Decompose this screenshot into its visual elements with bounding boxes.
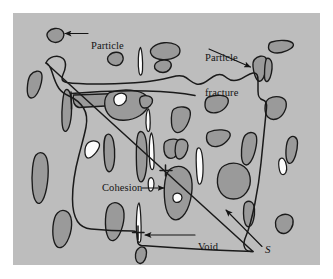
void — [148, 178, 154, 191]
particle — [265, 97, 286, 120]
microstructure-drawing — [13, 13, 320, 265]
particle — [105, 203, 124, 241]
void — [138, 48, 142, 76]
particle — [47, 28, 64, 42]
void — [196, 148, 203, 184]
particle — [27, 71, 42, 98]
void — [173, 193, 182, 202]
void — [85, 141, 100, 158]
void — [146, 109, 150, 132]
label-particle-fracture: Particle fracture — [205, 29, 238, 121]
particle — [241, 133, 256, 165]
particle — [150, 43, 180, 60]
particle — [275, 214, 293, 233]
particle — [135, 247, 146, 264]
particle — [286, 136, 298, 163]
void — [149, 133, 154, 170]
micrograph-panel: Particle Particle fracture Cohesion Void… — [13, 13, 320, 265]
void — [279, 158, 287, 174]
label-particle-fracture-line1: Particle — [205, 52, 238, 64]
boundary-tick-left — [71, 92, 72, 109]
particle-group — [27, 28, 297, 263]
label-void: Void — [198, 241, 218, 253]
particle — [171, 107, 190, 133]
particle — [136, 132, 147, 182]
particle — [217, 163, 250, 199]
particle — [53, 211, 72, 248]
figure-root: Particle Particle fracture Cohesion Void… — [0, 0, 333, 279]
label-particle-fracture-line2: fracture — [205, 87, 238, 99]
label-particle: Particle — [91, 40, 124, 52]
particle — [108, 52, 124, 65]
particle-fracture-right-half — [175, 139, 188, 159]
label-surface-s: S — [265, 244, 271, 256]
particle-cluster — [140, 96, 153, 108]
particle — [269, 40, 294, 53]
particle — [32, 153, 48, 204]
particle — [104, 134, 115, 172]
particle — [154, 60, 171, 72]
particle-fracture-right-half — [265, 58, 273, 81]
label-cohesion: Cohesion — [102, 182, 142, 194]
particle — [207, 130, 231, 147]
